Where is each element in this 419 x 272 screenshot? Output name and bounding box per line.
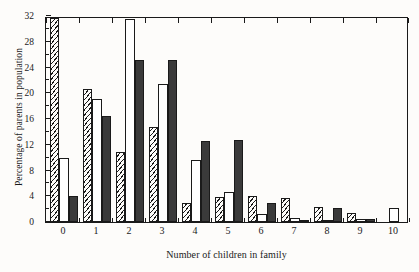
bar-series-3-5 (234, 140, 243, 222)
x-axis-tick-label: 9 (358, 226, 363, 236)
y-axis-tick (46, 28, 49, 29)
top-axis-tick (244, 18, 245, 23)
x-axis-tick-labels: 012345678910 (45, 226, 408, 242)
x-axis-tick-label: 8 (325, 226, 330, 236)
x-axis-tick-label: 2 (127, 226, 132, 236)
bar-series-2-4 (191, 160, 200, 222)
y-axis-tick (46, 208, 49, 209)
top-axis-tick (343, 18, 344, 23)
y-axis-tick-label: 4 (29, 193, 34, 203)
bar-series-2-6 (257, 214, 266, 222)
y-axis-tick (46, 182, 49, 183)
x-axis-tick (376, 218, 377, 222)
bar-series-1-3 (149, 127, 158, 222)
y-axis-tick-label: 8 (29, 167, 34, 177)
bar-series-1-1 (83, 89, 92, 222)
bar-series-2-1 (92, 99, 101, 222)
x-axis-tick (409, 218, 410, 222)
bar-series-2-7 (290, 218, 299, 223)
top-axis-tick (112, 18, 113, 23)
bar-series-3-3 (168, 60, 177, 222)
bar-series-2-10 (389, 208, 398, 222)
bar-series-1-4 (182, 203, 191, 222)
x-axis-tick-label: 0 (61, 226, 66, 236)
bar-series-2-2 (125, 19, 134, 222)
y-axis-tick-label: 0 (29, 218, 34, 228)
y-axis-tick (46, 15, 51, 16)
y-axis-tick (46, 54, 49, 55)
x-axis-tick (244, 218, 245, 222)
top-axis-tick (408, 18, 409, 23)
top-axis-tick (145, 18, 146, 23)
x-axis-tick (211, 218, 212, 222)
bar-series-3-0 (69, 196, 78, 222)
bar-series-3-6 (267, 203, 276, 222)
bar-series-3-8 (333, 208, 342, 222)
x-axis-tick-label: 7 (292, 226, 297, 236)
x-axis-tick-label: 3 (160, 226, 165, 236)
x-axis-title: Number of children in family (45, 249, 408, 260)
bar-series-3-7 (300, 220, 309, 222)
bar-series-2-5 (224, 192, 233, 222)
x-axis-tick (343, 218, 344, 222)
y-axis-tick-label: 12 (25, 141, 35, 151)
y-axis-tick (46, 79, 49, 80)
bar-series-3-2 (135, 60, 144, 222)
top-axis-tick (178, 18, 179, 23)
y-axis-tick-label: 24 (25, 64, 35, 74)
plot-area (45, 17, 408, 223)
x-axis-tick-label: 1 (94, 226, 99, 236)
x-axis-tick-label: 6 (259, 226, 264, 236)
x-axis-tick (112, 218, 113, 222)
bar-series-3-4 (201, 141, 210, 222)
y-axis-tick (46, 157, 49, 158)
bar-series-2-0 (59, 158, 68, 222)
bar-series-1-2 (116, 152, 125, 222)
y-axis-tick-label: 16 (25, 115, 35, 125)
top-axis-tick (79, 18, 80, 23)
y-axis-tick (46, 105, 49, 106)
bar-series-1-6 (248, 196, 257, 222)
bar-series-2-9 (356, 219, 365, 222)
y-axis-tick-label: 28 (25, 38, 35, 48)
bar-chart: Percentage of parents in population 0481… (0, 0, 419, 272)
x-axis-tick-label: 10 (388, 226, 398, 236)
top-axis-tick (310, 18, 311, 23)
x-axis-tick-label: 4 (193, 226, 198, 236)
x-axis-tick (277, 218, 278, 222)
top-axis-tick (211, 18, 212, 23)
y-axis-tick (46, 131, 49, 132)
bar-series-1-5 (215, 197, 224, 222)
x-axis-tick (178, 218, 179, 222)
y-axis-tick-label: 32 (25, 12, 35, 22)
bar-series-2-3 (158, 84, 167, 222)
top-axis-tick (46, 18, 47, 23)
bar-series-1-8 (314, 207, 323, 222)
x-axis-tick (310, 218, 311, 222)
bar-series-2-8 (323, 220, 332, 222)
bar-series-1-7 (281, 198, 290, 222)
bar-series-1-9 (347, 213, 356, 222)
top-axis-tick (277, 18, 278, 23)
x-axis-tick (145, 218, 146, 222)
y-axis-tick-labels: 048121620242832 (0, 17, 41, 223)
bar-series-1-0 (50, 18, 59, 222)
y-axis-tick-label: 20 (25, 90, 35, 100)
bar-series-3-9 (366, 219, 375, 222)
bar-series-3-1 (102, 116, 111, 222)
top-axis-tick (376, 18, 377, 23)
x-axis-tick (79, 218, 80, 222)
x-axis-tick-label: 5 (226, 226, 231, 236)
